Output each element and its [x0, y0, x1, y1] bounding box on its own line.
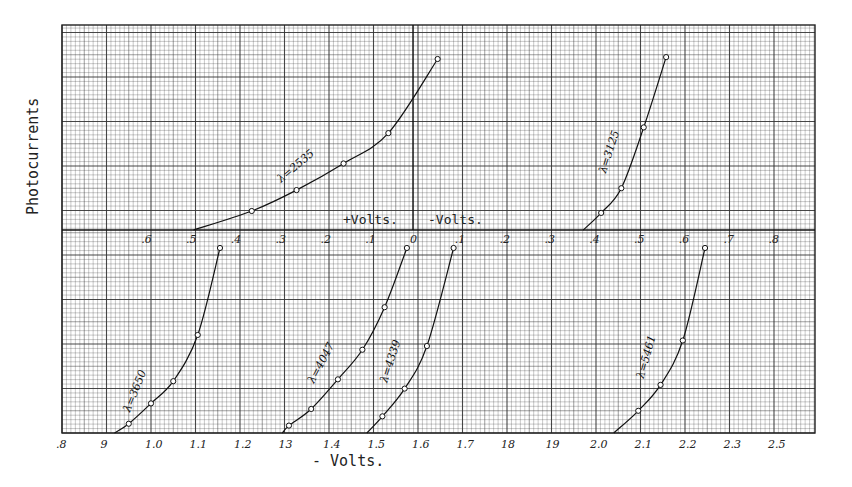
upper-tick-label: .3	[544, 233, 555, 246]
series-lambda-3650: λ=3650	[115, 245, 223, 433]
upper-tick-label: .5	[634, 233, 645, 246]
data-point	[424, 343, 429, 348]
upper-tick-label: .8	[768, 233, 779, 246]
data-point	[599, 210, 604, 215]
upper-tick-label: 0	[410, 233, 417, 246]
lower-tick-label: 1.7	[457, 438, 475, 451]
data-point	[382, 305, 387, 310]
plot-border	[62, 25, 815, 433]
upper-minus-volts-label: -Volts.	[428, 212, 483, 227]
lower-tick-label: 19	[546, 438, 560, 451]
lower-tick-label: 2.2	[678, 438, 697, 451]
upper-tick-label: .2	[320, 233, 331, 246]
data-point	[641, 125, 646, 130]
data-point	[680, 338, 685, 343]
upper-tick-label: .6	[679, 233, 690, 246]
upper-tick-label: .7	[724, 233, 735, 246]
upper-tick-label: .2	[500, 233, 511, 246]
lower-tick-label: 1.0	[145, 438, 163, 451]
upper-tick-label: .1	[365, 233, 376, 246]
data-point	[664, 55, 669, 60]
data-point	[404, 245, 409, 250]
x-axis-label: - Volts.	[312, 452, 384, 470]
data-point	[148, 401, 153, 406]
data-point	[636, 408, 641, 413]
lower-tick-label: 2.3	[723, 438, 742, 451]
data-point	[435, 56, 440, 61]
data-point	[309, 406, 314, 411]
data-point	[335, 377, 340, 382]
data-point	[619, 186, 624, 191]
series-lambda-2535: λ=2535	[193, 56, 440, 230]
lower-tick-label: 2.0	[589, 438, 608, 451]
lower-tick-label: 18	[501, 438, 515, 451]
data-point	[702, 245, 707, 250]
upper-tick-label: .1	[455, 233, 466, 246]
series-line	[282, 248, 407, 433]
lower-tick-label: 1.2	[234, 438, 252, 451]
lower-tick-label: 1.4	[323, 438, 341, 451]
data-point	[341, 161, 346, 166]
data-point	[386, 131, 391, 136]
data-point	[658, 382, 663, 387]
lower-tick-label: 9	[101, 438, 108, 451]
lower-tick-label: 1.5	[368, 438, 386, 451]
data-point	[249, 208, 254, 213]
data-point	[451, 245, 456, 250]
data-point	[195, 332, 200, 337]
upper-plus-volts-label: +Volts.	[343, 212, 398, 227]
upper-tick-label: .5	[186, 233, 197, 246]
lower-tick-label: 2.5	[767, 438, 786, 451]
data-point	[217, 245, 222, 250]
upper-tick-label: .6	[141, 233, 152, 246]
axes	[62, 25, 815, 433]
upper-tick-label: .4	[589, 233, 600, 246]
lower-tick-label: 13	[279, 438, 293, 451]
series-lambda-5461: λ=5461	[614, 245, 708, 433]
data-point	[360, 347, 365, 352]
data-point	[126, 421, 131, 426]
graph-paper-grid	[62, 25, 815, 433]
upper-tick-label: .3	[276, 233, 287, 246]
data-point	[171, 379, 176, 384]
lower-tick-label: 2.1	[634, 438, 653, 451]
lower-tick-label: .8	[56, 438, 67, 451]
photocurrent-chart: .6.5.4.3.2.10.1.2.3.4.5.6.7.8.891.01.11.…	[0, 0, 852, 487]
data-point	[402, 386, 407, 391]
upper-tick-label: .4	[231, 233, 242, 246]
lower-tick-label: 1.1	[190, 438, 208, 451]
series-lambda-4339: λ=4339	[367, 245, 456, 433]
lower-tick-label: 1.6	[412, 438, 430, 451]
series-line	[614, 248, 705, 433]
data-point	[294, 188, 299, 193]
y-axis-label: Photocurrents	[24, 98, 42, 215]
data-point	[380, 414, 385, 419]
data-point	[286, 423, 291, 428]
